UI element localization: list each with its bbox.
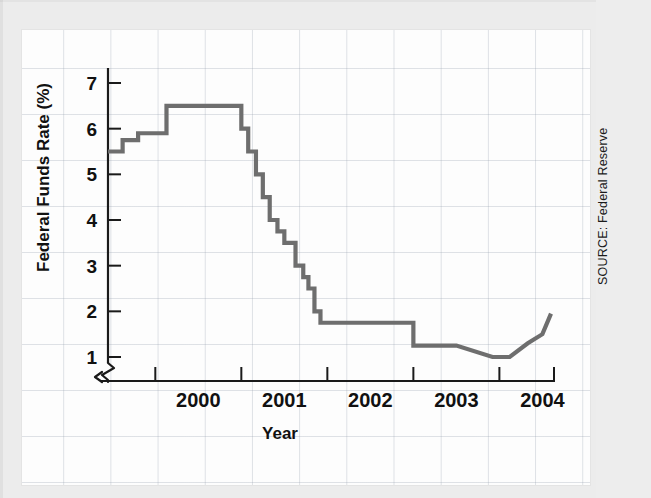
- x-tick-label: 2000: [176, 389, 221, 411]
- x-tick-label: 2004: [520, 389, 565, 411]
- x-axis: 20002001200220032004: [95, 367, 566, 411]
- x-axis-title: Year: [0, 424, 560, 444]
- x-tick-label: 2001: [262, 389, 307, 411]
- y-axis: 1234567: [86, 68, 121, 382]
- y-tick-label: 4: [86, 210, 97, 231]
- data-series: [108, 106, 551, 357]
- y-axis-title: Federal Funds Rate (%): [34, 83, 54, 272]
- series-line: [108, 106, 551, 357]
- x-tick-label: 2002: [348, 389, 393, 411]
- y-tick-label: 1: [86, 347, 97, 368]
- y-tick-label: 7: [86, 73, 97, 94]
- y-tick-label: 3: [86, 256, 97, 277]
- y-tick-label: 2: [86, 301, 97, 322]
- y-tick-label: 5: [86, 164, 97, 185]
- x-tick-label: 2003: [434, 389, 479, 411]
- y-tick-label: 6: [86, 119, 97, 140]
